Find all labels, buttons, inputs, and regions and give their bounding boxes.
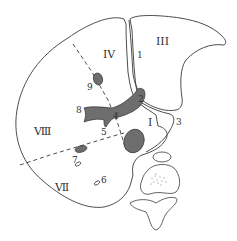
label-9: 9	[87, 82, 93, 92]
label-1-top: 1	[137, 50, 143, 60]
label-7: 7	[72, 155, 78, 165]
aorta	[153, 152, 171, 162]
ivc	[120, 126, 147, 155]
label-6: 6	[101, 175, 107, 185]
label-segment-IV: IV	[103, 48, 116, 61]
vertebra-body	[140, 164, 179, 194]
label-8: 8	[76, 105, 82, 115]
label-segment-VII: Ⅶ	[54, 181, 69, 194]
label-5: 5	[101, 127, 107, 137]
duct-6	[94, 180, 101, 186]
liver-segments-diagram: IV III Ⅷ Ⅶ I 1 2 3 4 5 6 7 8 9	[0, 0, 237, 241]
label-3: 3	[176, 117, 182, 127]
label-segment-VIII: Ⅷ	[33, 125, 51, 138]
label-segment-III: III	[156, 35, 169, 48]
boundary-IV-VIII	[73, 44, 126, 150]
label-2: 2	[138, 94, 144, 104]
label-4: 4	[113, 111, 119, 121]
label-segment-I: I	[148, 116, 152, 129]
vertebral-arch	[130, 197, 177, 230]
portal-vein-branch	[84, 88, 145, 127]
vessel-9	[92, 72, 104, 86]
vessel-7	[74, 144, 87, 153]
vertebra-marrow	[150, 173, 166, 185]
